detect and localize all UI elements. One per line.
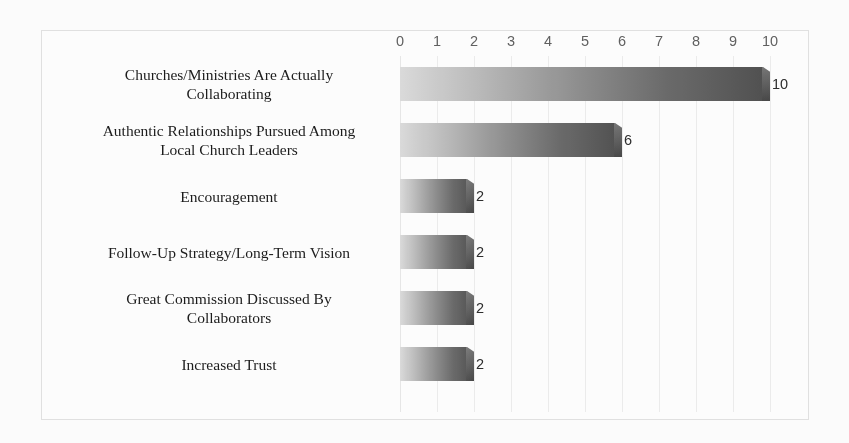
category-label-line2: Collaborators <box>64 308 394 327</box>
bar-fill <box>400 347 474 381</box>
bar-fill <box>400 123 622 157</box>
bar-fill <box>400 67 770 101</box>
bar[interactable]: 2 <box>400 347 474 381</box>
bar-row: Authentic Relationships Pursued AmongLoc… <box>0 112 849 168</box>
x-tick-label-1: 1 <box>433 33 441 49</box>
bar-fill <box>400 291 474 325</box>
bar-row: Churches/Ministries Are ActuallyCollabor… <box>0 56 849 112</box>
bar-fill <box>400 235 474 269</box>
bar-row: Follow-Up Strategy/Long-Term Vision2 <box>0 224 849 280</box>
bar-chart-figure: 012345678910 Churches/Ministries Are Act… <box>0 0 849 443</box>
bar-value-label: 2 <box>476 188 484 204</box>
bar[interactable]: 10 <box>400 67 770 101</box>
bar[interactable]: 2 <box>400 235 474 269</box>
bar-value-label: 2 <box>476 244 484 260</box>
bar[interactable]: 6 <box>400 123 622 157</box>
x-tick-label-4: 4 <box>544 33 552 49</box>
bar-value-label: 2 <box>476 356 484 372</box>
category-label: Churches/Ministries Are ActuallyCollabor… <box>64 65 394 103</box>
bar-value-label: 6 <box>624 132 632 148</box>
bar-row: Increased Trust2 <box>0 336 849 392</box>
category-label: Great Commission Discussed ByCollaborato… <box>64 289 394 327</box>
x-tick-label-10: 10 <box>762 33 778 49</box>
x-tick-label-0: 0 <box>396 33 404 49</box>
bar[interactable]: 2 <box>400 291 474 325</box>
category-label-line2: Collaborating <box>64 84 394 103</box>
category-label: Follow-Up Strategy/Long-Term Vision <box>64 243 394 262</box>
bar-fill <box>400 179 474 213</box>
category-label-line2: Local Church Leaders <box>64 140 394 159</box>
x-tick-label-9: 9 <box>729 33 737 49</box>
x-tick-label-3: 3 <box>507 33 515 49</box>
bar-row: Great Commission Discussed ByCollaborato… <box>0 280 849 336</box>
bar[interactable]: 2 <box>400 179 474 213</box>
bar-row: Encouragement2 <box>0 168 849 224</box>
category-label: Authentic Relationships Pursued AmongLoc… <box>64 121 394 159</box>
x-tick-label-6: 6 <box>618 33 626 49</box>
x-axis-tick-labels: 012345678910 <box>400 33 770 53</box>
bar-value-label: 10 <box>772 76 788 92</box>
category-label: Increased Trust <box>64 355 394 374</box>
x-tick-label-5: 5 <box>581 33 589 49</box>
bar-value-label: 2 <box>476 300 484 316</box>
x-tick-label-7: 7 <box>655 33 663 49</box>
category-label: Encouragement <box>64 187 394 206</box>
x-tick-label-8: 8 <box>692 33 700 49</box>
x-tick-label-2: 2 <box>470 33 478 49</box>
